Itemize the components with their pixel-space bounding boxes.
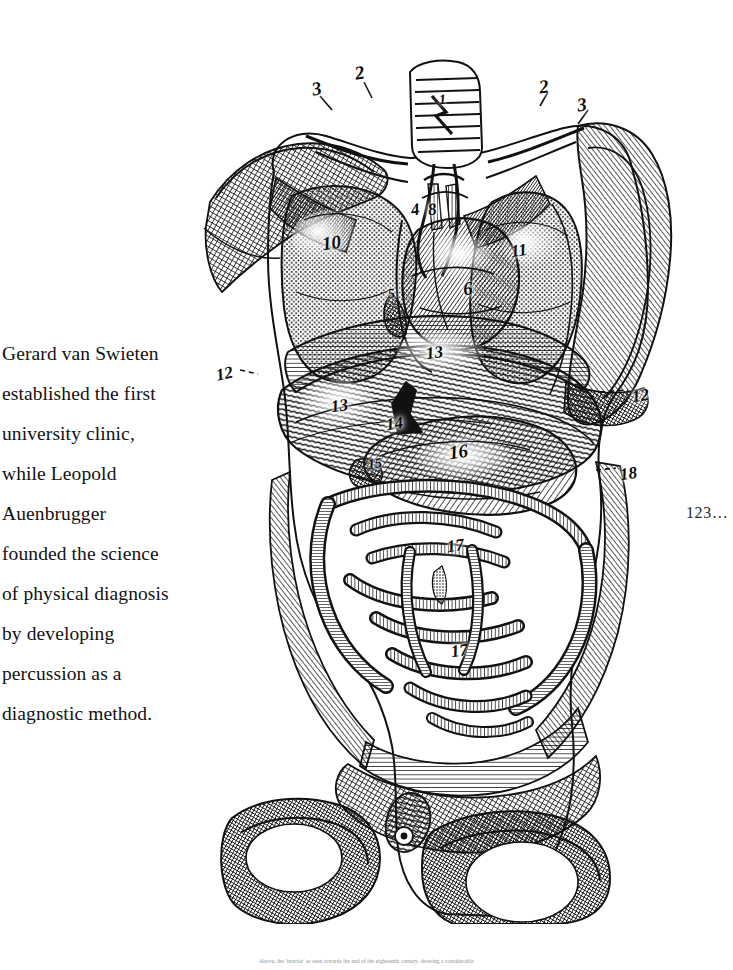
engraving-svg <box>196 52 678 924</box>
body-text-line: Auenbrugger <box>2 494 226 534</box>
body-text-block: Gerard van Swieten established the first… <box>2 334 226 734</box>
anatomical-engraving: 321234810116512131314161512181717 <box>196 52 678 924</box>
body-text-line: university clinic, <box>2 414 226 454</box>
body-text-line: while Leopold <box>2 454 226 494</box>
body-text-line: by developing <box>2 614 226 654</box>
page-number: 123… <box>686 504 728 522</box>
page-canvas: 321234810116512131314161512181717 Gerard… <box>0 0 733 970</box>
body-text-line: founded the science <box>2 534 226 574</box>
body-text-line: established the first <box>2 374 226 414</box>
body-text-line: percussion as a <box>2 654 226 694</box>
figure-caption: Above, the 'interior' as seen towards th… <box>0 958 733 965</box>
body-text-line: Gerard van Swieten <box>2 334 226 374</box>
body-text-line: diagnostic method. <box>2 694 226 734</box>
body-text-line: of physical diagnosis <box>2 574 226 614</box>
